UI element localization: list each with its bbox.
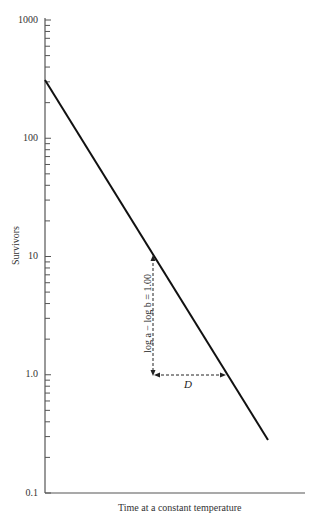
arrow-head-left [154,373,160,378]
log-difference-annotation: log a − log b = 1.00 [142,259,153,369]
y-axis-ticks [45,20,51,493]
y-axis-label: Survivors [10,221,21,271]
x-axis-label: Time at a constant temperature [118,502,241,513]
arrow-head-right [220,373,226,378]
ytick-0-1: 0.1 [4,488,38,498]
survivor-chart [0,0,319,519]
ytick-100: 100 [4,133,38,143]
d-value-annotation: D [184,378,192,390]
ytick-1: 1.0 [4,369,38,379]
survivor-curve [45,80,268,440]
ytick-1000: 1000 [4,15,38,25]
